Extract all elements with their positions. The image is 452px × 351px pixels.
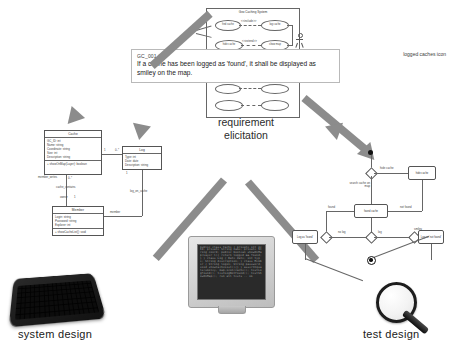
use-case-right-connector-h2 <box>287 45 293 46</box>
op: + showCacheList(): void <box>55 230 101 234</box>
use-case-2-find-cache <box>215 84 241 94</box>
class-attributes-member: Login: string Password: string Explorer:… <box>53 214 103 228</box>
actor-arms-icon <box>296 39 303 40</box>
state-edge-lognotfound-down <box>431 244 432 260</box>
state-edge-to-final-right <box>371 236 429 259</box>
attr: Description: string <box>125 163 159 167</box>
use-case-diagram-secondary <box>206 80 300 118</box>
assoc-log-mult2: 1 <box>126 172 128 175</box>
state-edge-nolog-label: no log <box>338 231 346 234</box>
use-case-right-connector-v <box>292 25 293 45</box>
keyboard-keys <box>15 280 99 319</box>
system-design-caption: system design <box>18 328 92 340</box>
use-case-right-connector-h1 <box>287 25 293 26</box>
logged-caches-annotation: logged caches icon <box>403 51 446 57</box>
use-case-2-log-cache <box>261 84 289 94</box>
use-case-2-link-1 <box>239 88 261 89</box>
assoc-cache-member <box>66 175 67 206</box>
assoc-member-writes-label: member_writes <box>38 176 57 179</box>
assoc-owner-mult: 1 <box>74 196 76 199</box>
state-edge-hide <box>374 173 408 174</box>
magnifier-handle <box>402 310 429 335</box>
arrow-to-system-design <box>58 64 140 134</box>
actor-leg-right-icon <box>301 42 304 47</box>
monitor-screen: public class Cache { private int gcId; p… <box>197 244 266 300</box>
class-name-log: Log <box>123 147 161 154</box>
state-edge-found-label: found <box>328 206 335 209</box>
assoc-member-writes-mult: 0..* <box>68 177 72 180</box>
keyboard <box>12 272 100 322</box>
assoc-log-member-h <box>104 216 142 217</box>
assoc-member-label: member <box>110 211 120 214</box>
assoc-cache-log <box>102 154 122 155</box>
use-case-2-show-map <box>261 100 289 111</box>
keyboard-body <box>9 273 107 327</box>
class-attributes-cache: GC_ID: int Name: string Coordinate: stri… <box>45 138 101 160</box>
state-edge-hide-back-v <box>422 180 423 211</box>
state-edge-search-label: search cache on map <box>348 182 370 188</box>
attr: Explorer: int <box>55 223 101 227</box>
state-edge-left-v <box>326 211 327 233</box>
actor-body-icon <box>299 37 300 43</box>
use-case-find-cache: find cache <box>215 20 241 31</box>
state-edge-hide-label: hide cache <box>380 167 394 170</box>
use-case-2-link-2 <box>241 105 261 106</box>
class-diagram: Cache GC_ID: int Name: string Coordinate… <box>22 128 162 238</box>
magnifier-icon <box>374 282 438 332</box>
state-decision-2 <box>320 231 333 244</box>
state-node-hide-cache: hide cache <box>408 166 436 180</box>
state-edge-smiley-label: smiley <box>414 228 422 231</box>
assoc-cache-mult: 1 <box>104 149 106 152</box>
class-operations-cache: + showOnMap(Layer): boolean <box>45 160 101 167</box>
class-box-log: Log Type: int Date: date Description: st… <box>122 146 162 170</box>
state-edge-log-label: log <box>378 231 382 234</box>
use-case-extend-label: <<extend>> <box>242 40 257 43</box>
actor-leg-left-icon <box>296 42 299 47</box>
class-box-member: Member Login: string Password: string Ex… <box>52 206 104 236</box>
use-case-include-label: <<include>> <box>241 20 256 23</box>
use-case-system-label: Geo Caching System <box>207 10 299 14</box>
use-case-2-hide-cache <box>215 100 243 111</box>
state-node-log-not-found: Log as 'not found' <box>418 230 444 244</box>
state-edge-notfound-label: not found <box>400 206 412 209</box>
assoc-log-on-cache-label: log_on_cache <box>130 190 147 193</box>
state-edge-logfound-down <box>305 244 306 260</box>
assoc-cache-contains-label: cache_contains <box>56 186 75 189</box>
state-edge-to-final-left <box>305 258 363 281</box>
assoc-owner-label: owner <box>60 196 68 199</box>
state-node-log-found: Log as 'found' <box>292 230 318 244</box>
state-final-node <box>367 256 376 265</box>
state-edge-hide-back-h <box>388 211 422 212</box>
state-decision-3 <box>365 231 378 244</box>
monitor: public class Cache { private int gcId; p… <box>188 236 275 308</box>
workflow-diagram: Geo Caching System find cache log cache … <box>0 0 452 351</box>
use-case-extend-link <box>241 45 261 46</box>
state-edge-left <box>326 211 354 212</box>
monitor-screen-text: public class Cache { private int gcId; p… <box>198 245 265 280</box>
class-operations-member: + showCacheList(): void <box>53 228 103 235</box>
requirement-text: If a cache has been logged as 'found', i… <box>137 60 334 77</box>
state-edge-search <box>371 176 372 204</box>
state-node-found-cache: found cache <box>354 204 388 218</box>
attr: Description: string <box>47 155 99 159</box>
class-name-member: Member <box>53 207 103 214</box>
class-attributes-log: Type: int Date: date Description: string <box>123 154 161 168</box>
monitor-stand <box>218 306 246 314</box>
state-edge-d2-d3 <box>329 237 367 238</box>
assoc-log-mult: 0..* <box>115 149 119 152</box>
state-diagram: hide cache hide cache search cache on ma… <box>296 148 446 278</box>
op: + showOnMap(Layer): boolean <box>47 162 99 166</box>
use-case-log-cache: log cache <box>261 20 289 31</box>
state-edge-d3-d4 <box>374 237 410 238</box>
class-box-cache: Cache GC_ID: int Name: string Coordinate… <box>44 130 102 175</box>
state-edge-mid <box>371 218 372 233</box>
use-case-include-link <box>239 25 261 26</box>
class-name-cache: Cache <box>45 131 101 138</box>
use-case-actor-right <box>295 33 304 49</box>
